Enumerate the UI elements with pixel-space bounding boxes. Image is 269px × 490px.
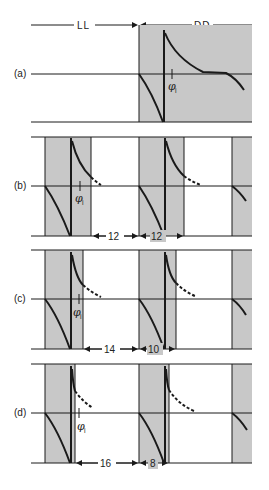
- phase-response-diagram: LL DD (a) φ i (b): [0, 0, 269, 490]
- panel-label-a: (a): [14, 68, 26, 79]
- interval-light-d: 16: [100, 458, 112, 469]
- panel-d: (d) φ i 16 8: [14, 364, 252, 469]
- interval-light-b: 12: [108, 231, 120, 242]
- panel-label-d: (d): [14, 407, 26, 418]
- panel-label-b: (b): [14, 180, 26, 191]
- panel-b: (b) φ i 12 12: [14, 137, 252, 242]
- interval-dark-b: 12: [151, 231, 163, 242]
- svg-text:i: i: [84, 427, 86, 434]
- panel-a: (a) φ i: [14, 25, 252, 122]
- panel-label-c: (c): [14, 293, 26, 304]
- interval-dark-d: 8: [150, 458, 156, 469]
- interval-light-c: 14: [104, 344, 116, 355]
- ll-label: LL: [77, 20, 90, 31]
- arrow-right-icon: [132, 22, 138, 28]
- interval-dark-c: 10: [148, 344, 160, 355]
- panel-c: (c) φ i 14 10: [14, 250, 252, 355]
